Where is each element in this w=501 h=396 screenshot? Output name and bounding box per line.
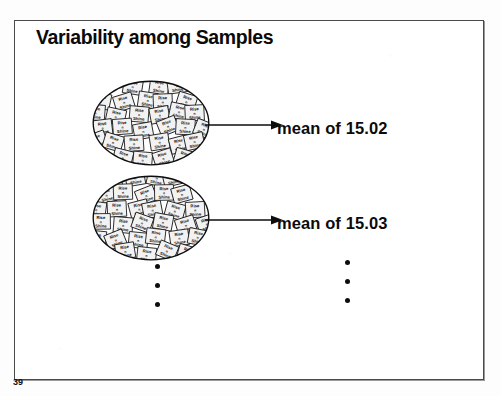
cereal-box: RisenShine [112, 118, 132, 135]
cereal-box: RisenShine [185, 105, 205, 121]
page-number: 39 [13, 377, 23, 387]
svg-text:Rise: Rise [107, 175, 117, 181]
sample-cluster-2: RisenShineRisenShineRisenShineRisenShine… [92, 175, 210, 261]
svg-text:n: n [95, 237, 97, 241]
svg-text:Shine: Shine [177, 158, 190, 166]
ellipsis-dot [155, 264, 160, 269]
mean-label-sample-2: mean of 15.03 [277, 214, 387, 233]
svg-text:n: n [186, 252, 189, 256]
svg-text:n: n [111, 181, 114, 185]
svg-text:Shine: Shine [111, 211, 123, 217]
cereal-box: RisenShine [167, 80, 188, 94]
cereal-box: RisenShine [124, 135, 144, 152]
svg-text:Shine: Shine [128, 145, 140, 151]
page-title: Variability among Samples [36, 26, 273, 49]
svg-text:Shine: Shine [133, 116, 145, 122]
svg-text:Shine: Shine [95, 223, 107, 228]
cereal-box: RisenShine [187, 228, 209, 247]
cereal-box: RisenShine [149, 133, 170, 151]
cereal-box: RisenShine [154, 185, 173, 201]
ellipsis-dot [155, 302, 160, 307]
ellipsis-vertical-icon-left [155, 264, 163, 312]
svg-text:Shine: Shine [117, 194, 129, 199]
arrow-right-icon-1 [205, 118, 285, 132]
sample-cluster-1: RisenShineRisenShineRisenShineRisenShine… [92, 80, 210, 166]
sample-ellipse-1: RisenShineRisenShineRisenShineRisenShine… [92, 80, 210, 166]
mean-label-sample-1: mean of 15.02 [277, 119, 387, 138]
ellipsis-vertical-icon-right [345, 260, 353, 308]
svg-text:Shine: Shine [92, 240, 103, 246]
sample-ellipse-2: RisenShineRisenShineRisenShineRisenShine… [92, 175, 210, 261]
ellipsis-dot [345, 279, 350, 284]
ellipsis-dot [155, 283, 160, 288]
svg-text:Shine: Shine [179, 129, 191, 135]
svg-text:Shine: Shine [158, 194, 170, 199]
ellipsis-dot [345, 260, 350, 265]
cereal-box: RisenShine [183, 132, 205, 151]
cereal-box: RisenShine [185, 201, 205, 218]
svg-text:Rise: Rise [167, 175, 177, 177]
cereal-box: RisenShine [113, 184, 133, 200]
arrow-right-icon-2 [205, 213, 285, 227]
svg-text:Shine: Shine [180, 254, 193, 261]
svg-text:Shine: Shine [117, 128, 129, 134]
slide-frame [14, 20, 484, 380]
ellipsis-dot [345, 298, 350, 303]
cereal-box: RisenShine [129, 106, 149, 123]
slide-root: Variability among Samples RisenShineRise… [0, 0, 501, 396]
cereal-box: RisenShine [176, 243, 199, 261]
